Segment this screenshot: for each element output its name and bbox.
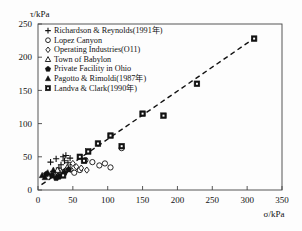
legend-label-1: Lopez Canyon: [54, 36, 102, 45]
marker-square-inner: [87, 150, 89, 152]
scatter-plot: 050100150200250300350σ/kPa05010015020025…: [0, 0, 302, 231]
marker-square-inner: [196, 83, 198, 85]
marker-square-inner: [142, 113, 144, 115]
marker-circle-open: [90, 159, 95, 164]
marker-circle-open: [108, 165, 113, 170]
chart-figure: 050100150200250300350σ/kPa05010015020025…: [0, 0, 302, 231]
x-tick-label: 150: [136, 195, 150, 205]
marker-plus: [60, 154, 66, 160]
x-axis: 050100150200250300350σ/kPa: [36, 186, 290, 219]
marker-square-inner: [253, 38, 255, 40]
x-tick-label: 200: [171, 195, 185, 205]
marker-triangle-filled: [45, 76, 50, 81]
marker-diamond-open: [46, 47, 50, 53]
marker-triangle-filled: [50, 167, 56, 172]
marker-square-inner: [79, 156, 81, 158]
marker-plus: [47, 159, 53, 165]
legend-label-6: Landva & Clark(1990年): [54, 83, 137, 93]
marker-square-inner: [110, 135, 112, 137]
marker-square-inner: [62, 174, 64, 176]
marker-square-inner: [121, 145, 123, 147]
y-tick-label: 0: [28, 185, 33, 195]
marker-square-inner: [47, 87, 49, 89]
marker-plus: [53, 156, 59, 162]
legend-label-5: Pagotto & Rimoldi(1987年): [54, 73, 146, 83]
y-tick-label: 150: [19, 86, 33, 96]
marker-circle-open: [102, 161, 107, 166]
marker-diamond-open: [84, 167, 89, 173]
legend: Richardson & Reynolds(1991年)Lopez Canyon…: [45, 25, 163, 93]
marker-square-inner: [97, 143, 99, 145]
legend-label-3: Town of Babylon: [54, 55, 111, 64]
legend-label-4: Private Facility in Ohio: [54, 64, 131, 73]
y-axis: 050100150200250τ/kPa: [19, 9, 50, 195]
marker-plus: [45, 28, 51, 34]
series-1: [72, 146, 125, 176]
y-tick-label: 200: [19, 52, 33, 62]
marker-triangle-open: [45, 57, 50, 62]
x-tick-label: 350: [275, 195, 289, 205]
y-tick-label: 100: [19, 119, 33, 129]
marker-circle-open: [46, 38, 51, 43]
x-axis-title: σ/kPa: [264, 209, 285, 219]
y-axis-title: τ/kPa: [30, 9, 50, 19]
x-tick-label: 0: [36, 195, 41, 205]
marker-square-inner: [162, 115, 164, 117]
x-tick-label: 100: [101, 195, 115, 205]
marker-circle-open: [97, 163, 102, 168]
marker-square-inner: [83, 160, 85, 162]
marker-pentagon-filled: [45, 66, 50, 71]
y-tick-label: 250: [19, 19, 33, 29]
y-tick-label: 50: [23, 152, 33, 162]
x-tick-label: 300: [240, 195, 254, 205]
legend-label-2: Operating Industries(O11): [54, 45, 141, 54]
x-tick-label: 50: [68, 195, 78, 205]
x-tick-label: 250: [206, 195, 220, 205]
legend-label-0: Richardson & Reynolds(1991年): [54, 25, 163, 35]
